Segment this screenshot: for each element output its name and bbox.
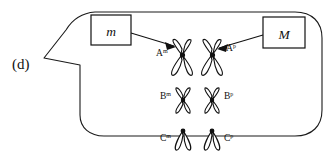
centromere-dot <box>180 52 185 57</box>
locus-superscript: p <box>230 91 233 97</box>
panel-label: (d) <box>12 56 30 73</box>
locus-superscript: p <box>230 133 233 139</box>
centromere-dot <box>210 129 215 134</box>
locus-superscript: m <box>166 133 171 139</box>
locus-label-c-maternal: Cm <box>160 133 171 144</box>
diagram-svg: (d) m M Am <box>0 0 334 167</box>
figure-canvas: (d) m M Am <box>0 0 334 167</box>
locus-superscript: m <box>163 48 168 54</box>
paternal-allele-label: M <box>277 27 290 42</box>
locus-label-c-paternal: Cp <box>224 133 233 144</box>
centromere-dot <box>181 98 185 102</box>
centromere-dot <box>210 98 214 102</box>
locus-superscript: p <box>233 43 236 49</box>
locus-superscript: m <box>166 91 171 97</box>
centromere-dot <box>210 52 215 57</box>
maternal-allele-label: m <box>106 24 116 39</box>
centromere-dot <box>181 129 186 134</box>
